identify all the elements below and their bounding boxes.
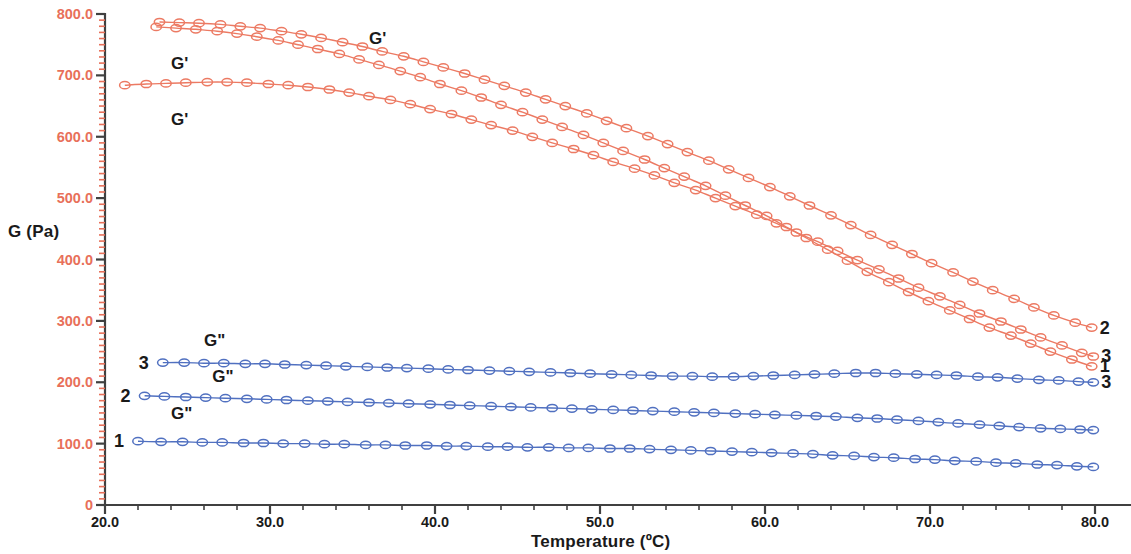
y-tick-label: 500.0 <box>57 190 93 206</box>
y-tick-label: 400.0 <box>57 252 93 268</box>
y-tick-label: 300.0 <box>57 313 93 329</box>
series-label-g-prime: G' <box>171 54 188 74</box>
series-left-number: 2 <box>121 385 131 406</box>
data-series <box>154 18 1097 331</box>
data-series <box>133 438 1099 471</box>
y-tick-label: 700.0 <box>57 67 93 83</box>
y-tick-label: 600.0 <box>57 129 93 145</box>
x-tick-label: 70.0 <box>916 514 944 530</box>
x-axis-title: Temperature (ºC) <box>531 532 670 552</box>
y-tick-label: 100.0 <box>57 436 93 452</box>
data-series <box>151 23 1097 370</box>
series-label-g-double-prime: G" <box>204 331 225 351</box>
chart-canvas: G (Pa) Temperature (ºC) 0100.0200.0300.0… <box>0 0 1131 554</box>
series-label-g-prime: G' <box>369 29 386 49</box>
series-line <box>156 27 1091 366</box>
data-series <box>139 392 1098 434</box>
series-right-number: 2 <box>1100 317 1110 338</box>
data-series <box>158 359 1099 386</box>
series-layer <box>120 18 1099 470</box>
axes-layer <box>96 13 1131 514</box>
series-line <box>125 82 1094 356</box>
y-tick-label: 200.0 <box>57 374 93 390</box>
series-line <box>145 396 1094 430</box>
x-tick-label: 60.0 <box>751 514 779 530</box>
y-tick-label: 800.0 <box>57 6 93 22</box>
y-axis-title: G (Pa) <box>8 222 59 242</box>
series-label-g-prime: G' <box>171 110 188 130</box>
x-tick-label: 40.0 <box>421 514 449 530</box>
x-tick-label: 80.0 <box>1081 514 1109 530</box>
y-tick-label: 0 <box>85 497 93 513</box>
series-left-number: 1 <box>114 431 124 452</box>
series-label-g-double-prime: G" <box>171 404 192 424</box>
x-tick-label: 20.0 <box>91 514 119 530</box>
series-right-number: 3 <box>1101 372 1111 393</box>
x-tick-label: 50.0 <box>586 514 614 530</box>
series-right-number: 3 <box>1101 346 1111 367</box>
x-tick-label: 30.0 <box>256 514 284 530</box>
series-line <box>160 22 1092 328</box>
data-series <box>120 79 1099 361</box>
series-left-number: 3 <box>139 352 149 373</box>
rheology-plot-svg <box>0 0 1131 554</box>
series-label-g-double-prime: G" <box>212 367 233 387</box>
